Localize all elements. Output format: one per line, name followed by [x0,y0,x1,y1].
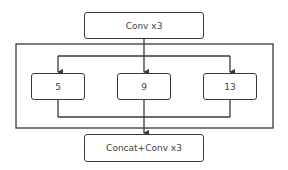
conv-x3-block: Conv x3 [84,12,204,39]
conv-x3-label: Conv x3 [126,21,163,31]
pool-9-block: 9 [117,73,171,100]
concat-conv-block: Concat+Conv x3 [84,134,204,162]
pool-13-label: 13 [224,82,235,92]
pool-5-label: 5 [55,82,61,92]
pool-13-block: 13 [203,73,257,100]
concat-conv-label: Concat+Conv x3 [106,143,182,153]
pool-9-label: 9 [141,82,147,92]
pool-5-block: 5 [31,73,85,100]
